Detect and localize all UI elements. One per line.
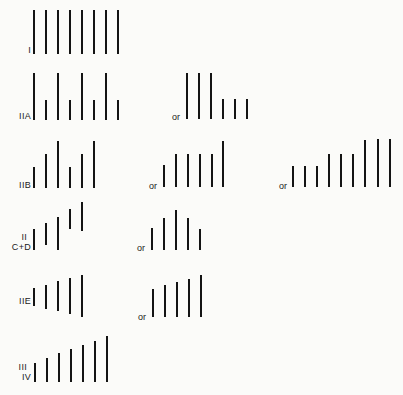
vertical-bar bbox=[152, 289, 154, 317]
vertical-bar bbox=[151, 228, 153, 250]
vertical-bar bbox=[163, 165, 165, 187]
vertical-bar bbox=[82, 345, 84, 382]
vertical-bar bbox=[33, 229, 35, 250]
vertical-bar bbox=[198, 73, 200, 119]
vertical-bar bbox=[117, 10, 119, 54]
vertical-bar bbox=[45, 223, 47, 245]
vertical-bar bbox=[57, 10, 59, 54]
or-connector-label: or bbox=[279, 181, 287, 191]
row-label-line: C+D bbox=[0, 242, 31, 252]
vertical-bar bbox=[69, 209, 71, 229]
vertical-bar bbox=[304, 166, 306, 187]
vertical-bar bbox=[222, 141, 224, 187]
vertical-bar bbox=[57, 281, 59, 311]
vertical-bar bbox=[93, 141, 95, 188]
diagram-canvas: IIIAIIBIIC+DIIEIIIIV ororororor bbox=[0, 0, 403, 395]
vertical-bar bbox=[175, 210, 177, 250]
vertical-bar bbox=[222, 99, 224, 119]
or-connector-label: or bbox=[149, 181, 157, 191]
or-connector-label: or bbox=[137, 243, 145, 253]
vertical-bar bbox=[46, 358, 48, 382]
row-label-iii-iv: IIIIV bbox=[0, 362, 31, 382]
vertical-bar bbox=[33, 167, 35, 188]
vertical-bar bbox=[69, 100, 71, 120]
vertical-bar bbox=[117, 100, 119, 120]
row-label-line: II bbox=[0, 232, 31, 242]
vertical-bar bbox=[57, 73, 59, 120]
vertical-bar bbox=[94, 341, 96, 382]
vertical-bar bbox=[105, 10, 107, 54]
vertical-bar bbox=[45, 285, 47, 309]
row-label-line: I bbox=[0, 45, 31, 55]
vertical-bar bbox=[33, 10, 35, 54]
vertical-bar bbox=[69, 10, 71, 54]
row-label-line: IIA bbox=[0, 111, 31, 121]
vertical-bar bbox=[199, 154, 201, 187]
vertical-bar bbox=[175, 154, 177, 187]
vertical-bar bbox=[210, 73, 212, 119]
vertical-bar bbox=[70, 349, 72, 382]
vertical-bar bbox=[57, 141, 59, 188]
row-label-iie: IIE bbox=[0, 296, 31, 306]
vertical-bar bbox=[164, 285, 166, 317]
vertical-bar bbox=[45, 100, 47, 120]
vertical-bar bbox=[106, 336, 108, 382]
vertical-bar bbox=[187, 218, 189, 250]
row-label-iib: IIB bbox=[0, 180, 31, 190]
vertical-bar bbox=[33, 288, 35, 306]
vertical-bar bbox=[81, 154, 83, 188]
or-connector-label: or bbox=[172, 112, 180, 122]
vertical-bar bbox=[292, 166, 294, 187]
vertical-bar bbox=[69, 278, 71, 314]
vertical-bar bbox=[187, 154, 189, 187]
vertical-bar bbox=[69, 167, 71, 188]
vertical-bar bbox=[105, 73, 107, 120]
row-label-i: I bbox=[0, 45, 31, 55]
vertical-bar bbox=[316, 166, 318, 187]
or-connector-label: or bbox=[138, 312, 146, 322]
vertical-bar bbox=[45, 10, 47, 54]
vertical-bar bbox=[188, 279, 190, 317]
vertical-bar bbox=[234, 99, 236, 119]
vertical-bar bbox=[199, 229, 201, 250]
vertical-bar bbox=[57, 217, 59, 250]
vertical-bar bbox=[352, 154, 354, 187]
vertical-bar bbox=[163, 218, 165, 250]
vertical-bar bbox=[93, 10, 95, 54]
vertical-bar bbox=[81, 202, 83, 231]
vertical-bar bbox=[58, 353, 60, 382]
vertical-bar bbox=[81, 73, 83, 120]
row-label-iia: IIA bbox=[0, 111, 31, 121]
vertical-bar bbox=[211, 154, 213, 187]
vertical-bar bbox=[176, 282, 178, 317]
vertical-bar bbox=[200, 275, 202, 317]
vertical-bar bbox=[340, 154, 342, 187]
row-label-line: IIB bbox=[0, 180, 31, 190]
vertical-bar bbox=[93, 100, 95, 120]
vertical-bar bbox=[34, 363, 36, 382]
vertical-bar bbox=[186, 73, 188, 119]
vertical-bar bbox=[246, 99, 248, 119]
row-label-line: IIE bbox=[0, 296, 31, 306]
vertical-bar bbox=[389, 139, 391, 187]
row-label-line: III bbox=[0, 362, 31, 372]
vertical-bar bbox=[328, 154, 330, 187]
vertical-bar bbox=[364, 140, 366, 187]
vertical-bar bbox=[81, 275, 83, 317]
vertical-bar bbox=[33, 73, 35, 120]
row-label-iic-d: IIC+D bbox=[0, 232, 31, 252]
vertical-bar bbox=[377, 139, 379, 187]
vertical-bar bbox=[81, 10, 83, 54]
vertical-bar bbox=[45, 154, 47, 188]
row-label-line: IV bbox=[0, 372, 31, 382]
